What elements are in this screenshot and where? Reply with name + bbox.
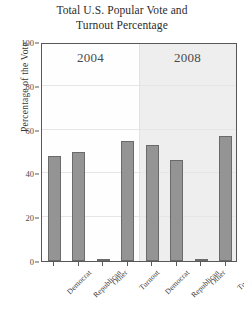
plot-area: 2004 2008 (41, 43, 237, 262)
x-axis-label-2008-democrat: Democrat (163, 268, 191, 296)
y-tick-mark-100 (35, 43, 39, 44)
bar-2008-turnout[interactable] (219, 136, 232, 261)
bar-2008-democrat[interactable] (146, 145, 159, 261)
y-tick-mark-60 (35, 130, 39, 131)
bar-2004-other[interactable] (97, 259, 110, 261)
chart-title-line-2: Turnout Percentage (0, 18, 244, 33)
y-tick-label-20: 20 (26, 213, 35, 223)
x-tick-mark-2004-1 (78, 262, 79, 266)
bar-2004-democrat[interactable] (48, 156, 61, 261)
y-tick-mark-40 (35, 174, 39, 175)
group-label-2008: 2008 (139, 50, 236, 66)
x-tick-mark-2008-3 (225, 262, 226, 266)
bar-2004-turnout[interactable] (121, 141, 134, 261)
x-axis: DemocratRepublicanOtherTurnoutDemocratRe… (41, 262, 237, 326)
y-tick-mark-80 (35, 86, 39, 87)
x-axis-label-2008-turnout: Turnout (235, 268, 244, 292)
x-tick-mark-2008-2 (200, 262, 201, 266)
bar-2008-republican[interactable] (170, 160, 183, 261)
panel-divider (139, 44, 140, 261)
chart-title-line-1: Total U.S. Popular Vote and (0, 3, 244, 18)
y-tick-mark-0 (35, 262, 39, 263)
y-tick-mark-20 (35, 218, 39, 219)
x-tick-mark-2008-1 (176, 262, 177, 266)
x-tick-mark-2004-0 (53, 262, 54, 266)
y-tick-label-0: 0 (30, 257, 34, 267)
x-axis-label-2004-turnout: Turnout (137, 268, 161, 292)
bar-2008-other[interactable] (195, 259, 208, 261)
bar-2004-republican[interactable] (72, 152, 85, 262)
group-label-2004: 2004 (42, 50, 139, 66)
x-tick-mark-2004-2 (102, 262, 103, 266)
y-tick-label-40: 40 (26, 169, 35, 179)
x-tick-mark-2008-0 (151, 262, 152, 266)
x-axis-label-2004-democrat: Democrat (65, 268, 93, 296)
y-axis-title: Percentage of the Vote (20, 12, 30, 162)
x-tick-mark-2004-3 (127, 262, 128, 266)
page-title: Total U.S. Popular Vote and Turnout Perc… (0, 3, 244, 33)
